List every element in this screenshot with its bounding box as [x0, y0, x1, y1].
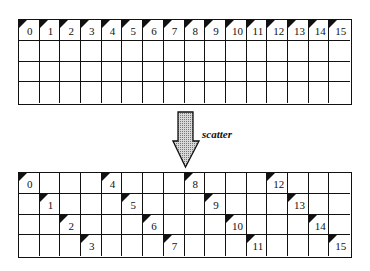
grid-cell — [329, 82, 350, 103]
grid-cell — [226, 62, 247, 83]
grid-cell: 7 — [164, 235, 185, 256]
corner-marker-icon — [40, 194, 48, 202]
element-value: 11 — [253, 241, 264, 252]
grid-cell — [40, 235, 61, 256]
corner-marker-icon — [40, 20, 48, 28]
grid-cell — [143, 173, 164, 194]
grid-cell — [81, 82, 102, 103]
grid-cell: 1 — [40, 20, 61, 41]
grid-cell — [143, 41, 164, 62]
grid-cell — [122, 62, 143, 83]
source-grid: 0123456789101112131415 — [18, 19, 352, 105]
grid-cell: 8 — [185, 20, 206, 41]
grid-cell — [143, 82, 164, 103]
grid-cell — [19, 62, 40, 83]
corner-marker-icon — [143, 215, 151, 223]
grid-cell — [247, 41, 268, 62]
corner-marker-icon — [185, 173, 193, 181]
grid-cell — [226, 173, 247, 194]
grid-cell — [185, 62, 206, 83]
grid-cell — [205, 41, 226, 62]
grid-cell: 5 — [122, 20, 143, 41]
grid-cell — [185, 194, 206, 215]
element-value: 8 — [193, 179, 199, 190]
grid-cell — [102, 235, 123, 256]
corner-marker-icon — [81, 235, 89, 243]
grid-cell — [329, 173, 350, 194]
corner-marker-icon — [185, 20, 193, 28]
grid-cell — [247, 62, 268, 83]
element-value: 15 — [335, 241, 346, 252]
element-value: 4 — [110, 26, 116, 37]
grid-cell — [122, 41, 143, 62]
grid-cell: 7 — [164, 20, 185, 41]
grid-cell — [60, 235, 81, 256]
element-value: 2 — [68, 26, 74, 37]
grid-cell — [164, 173, 185, 194]
element-value: 0 — [27, 179, 33, 190]
corner-marker-icon — [60, 20, 68, 28]
grid-cell — [288, 173, 309, 194]
grid-cell: 12 — [267, 20, 288, 41]
element-value: 4 — [110, 179, 116, 190]
grid-cell — [122, 82, 143, 103]
grid-cell — [164, 82, 185, 103]
grid-cell: 3 — [81, 20, 102, 41]
element-value: 10 — [232, 26, 243, 37]
grid-cell — [81, 173, 102, 194]
grid-cell — [60, 82, 81, 103]
corner-marker-icon — [60, 215, 68, 223]
grid-cell — [226, 194, 247, 215]
grid-cell — [40, 62, 61, 83]
corner-marker-icon — [164, 235, 172, 243]
grid-cell — [205, 82, 226, 103]
scattered-grid: 0481215913261014371115 — [18, 172, 352, 258]
grid-cell — [102, 82, 123, 103]
grid-cell: 12 — [267, 173, 288, 194]
grid-cell: 4 — [102, 20, 123, 41]
grid-cell — [329, 194, 350, 215]
grid-cell: 9 — [205, 194, 226, 215]
grid-cell — [185, 82, 206, 103]
grid-cell — [309, 194, 330, 215]
grid-cell — [267, 82, 288, 103]
grid-cell — [19, 82, 40, 103]
grid-cell: 0 — [19, 173, 40, 194]
grid-cell — [288, 82, 309, 103]
grid-cell — [288, 235, 309, 256]
grid-cell — [267, 62, 288, 83]
grid-cell — [81, 62, 102, 83]
element-value: 14 — [315, 26, 326, 37]
grid-cell — [60, 194, 81, 215]
grid-cell — [267, 41, 288, 62]
grid-cell — [122, 235, 143, 256]
grid-cell — [329, 62, 350, 83]
grid-cell: 4 — [102, 173, 123, 194]
grid-cell: 6 — [143, 20, 164, 41]
element-value: 15 — [335, 26, 346, 37]
grid-cell — [60, 173, 81, 194]
grid-cell — [247, 82, 268, 103]
grid-cell — [309, 173, 330, 194]
grid-cell — [205, 62, 226, 83]
grid-cell — [267, 194, 288, 215]
grid-cell: 0 — [19, 20, 40, 41]
grid-cell: 13 — [288, 194, 309, 215]
element-value: 13 — [294, 200, 305, 211]
element-value: 1 — [48, 200, 54, 211]
grid-cell — [329, 41, 350, 62]
grid-cell — [122, 215, 143, 236]
corner-marker-icon — [143, 20, 151, 28]
grid-cell — [102, 41, 123, 62]
element-value: 0 — [27, 26, 33, 37]
grid-cell — [288, 41, 309, 62]
grid-cell — [19, 235, 40, 256]
grid-cell — [40, 173, 61, 194]
grid-cell — [205, 215, 226, 236]
element-value: 3 — [89, 241, 95, 252]
corner-marker-icon — [81, 20, 89, 28]
grid-cell — [40, 215, 61, 236]
grid-cell — [143, 235, 164, 256]
element-value: 8 — [193, 26, 199, 37]
grid-cell: 6 — [143, 215, 164, 236]
